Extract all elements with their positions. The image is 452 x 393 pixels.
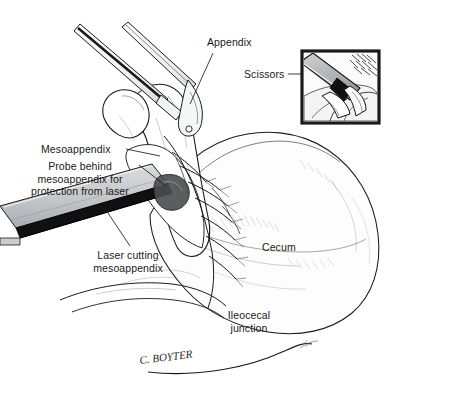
label-probe-behind-mesoappendix: Probe behind mesoappendix for protection… xyxy=(14,160,146,198)
label-ileocecal-junction: Ileocecal junction xyxy=(213,309,285,334)
illustration-figure: C. BOYTER Appendix Scissors Mesoappendix… xyxy=(0,0,452,393)
label-scissors: Scissors xyxy=(244,68,284,81)
laser-cut-zone xyxy=(154,174,189,210)
label-mesoappendix: Mesoappendix xyxy=(41,143,111,156)
label-appendix: Appendix xyxy=(207,36,252,49)
label-laser-cutting-mesoappendix: Laser cutting mesoappendix xyxy=(75,249,181,274)
scissors-detail-inset[interactable] xyxy=(300,51,379,123)
label-cecum: Cecum xyxy=(262,241,296,254)
